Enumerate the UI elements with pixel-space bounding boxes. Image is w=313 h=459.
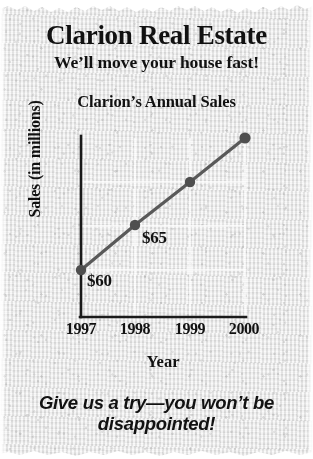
newspaper-ad-clipping: Clarion Real Estate We’ll move your hous… [0,0,313,459]
data-point-label-1997: $60 [87,271,112,291]
ad-tagline: Give us a try—you won’t be disappointed! [8,392,305,435]
data-point-label-1998: $65 [142,228,167,248]
chart-plot-area [0,0,313,400]
annual-sales-line-chart: Sales (in millions) 1997 1998 1999 2000 … [0,0,313,400]
x-tick-label-1998: 1998 [112,320,158,338]
torn-paper-top-edge [0,0,313,17]
sales-series-line [81,138,245,270]
x-tick-label-2000: 2000 [221,320,267,338]
x-tick-label-1999: 1999 [167,320,213,338]
torn-paper-bottom-edge [0,450,313,459]
y-axis-title: Sales (in millions) [26,79,44,239]
x-tick-label-1997: 1997 [58,320,104,338]
paper-left-edge [0,0,6,459]
x-axis-title: Year [80,352,246,372]
paper-right-edge [307,0,313,459]
